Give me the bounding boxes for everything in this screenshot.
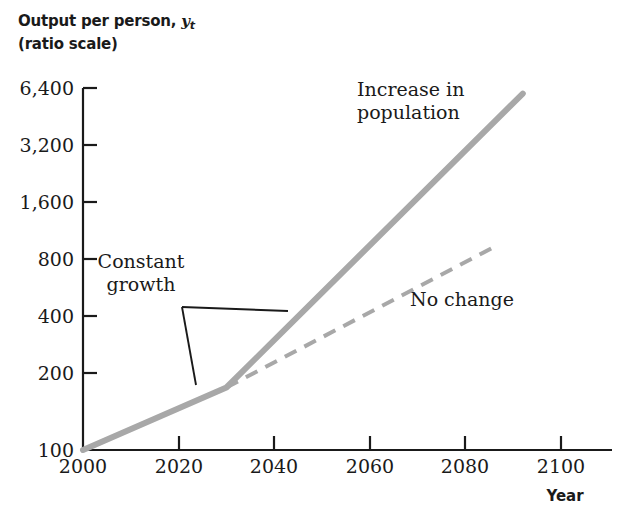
chart-figure: Output per person, yt(ratio scale) 6,400… xyxy=(0,0,630,521)
chart-plot-area xyxy=(0,0,630,521)
leader-line-constant-growth-upper xyxy=(182,307,288,311)
x-axis-ticks xyxy=(179,436,561,450)
leader-line-constant-growth-lower xyxy=(182,307,196,385)
series-line-increase-in-population xyxy=(83,94,523,450)
y-axis-ticks xyxy=(83,88,97,373)
series-line-no-change xyxy=(226,245,499,388)
